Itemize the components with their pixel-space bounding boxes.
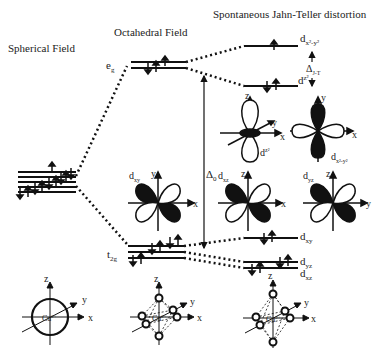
eg-label: eg xyxy=(106,59,115,74)
dz2-axis-y: y xyxy=(272,117,277,128)
elongated-axis-y: y xyxy=(304,297,309,308)
t2g-label: t2g xyxy=(107,248,118,263)
dx2y2-axis-y: y xyxy=(321,92,326,103)
octahedron-axis-z: z xyxy=(154,273,159,284)
dz2-axis-z: z xyxy=(245,90,250,101)
dz2-orbital-label: dz² xyxy=(260,147,270,158)
spherical-electrons xyxy=(17,162,74,199)
dyz-orbital-label: dyz xyxy=(303,170,314,183)
eg-electrons xyxy=(145,56,168,74)
dxy-axis-y: y xyxy=(151,168,156,179)
dz2-level-label: dz² xyxy=(298,74,309,86)
dxy-axis-x: x xyxy=(193,198,198,209)
dyz-axis-y: y xyxy=(366,198,371,209)
dx2y2-orbital-label: dx²-y² xyxy=(331,151,348,164)
connectors-spherical-octahedral xyxy=(76,66,127,244)
title-octahedral: Octahedral Field xyxy=(114,26,188,38)
sphere-axis-z: z xyxy=(44,273,49,284)
title-spherical: Spherical Field xyxy=(8,42,75,54)
sphere-center-label: Cu2+ xyxy=(42,314,57,323)
elongated-center-label: Cu2+ xyxy=(266,315,281,324)
octahedron-center-label: Cu2+ xyxy=(152,314,167,323)
octahedron-axis-y: y xyxy=(190,296,195,307)
orbital-dz2 xyxy=(220,97,281,162)
t2g-electrons xyxy=(130,235,181,266)
dxz-axis-z: z xyxy=(241,168,246,179)
dz2-axis-x: x xyxy=(280,131,285,142)
dx2y2-level-label: dx²-y² xyxy=(300,32,319,47)
connectors-octahedral-jt xyxy=(184,46,244,268)
sphere-axis-x: x xyxy=(88,312,93,323)
dxy-level-label: dxy xyxy=(300,230,313,245)
dxy-orbital-label: dxy xyxy=(129,170,140,183)
octahedron-axis-x: x xyxy=(197,312,202,323)
geometry-elongated-octahedron xyxy=(243,280,309,348)
dxz-orbital-label: dxz xyxy=(218,170,229,183)
title-jahn-teller: Spontaneous Jahn-Teller distortion xyxy=(213,8,367,20)
dx2y2-axis-x: x xyxy=(352,129,357,140)
elongated-axis-x: x xyxy=(311,313,316,324)
dxz-axis-x: x xyxy=(281,198,286,209)
dyz-axis-z: z xyxy=(326,168,331,179)
sphere-axis-y: y xyxy=(82,294,87,305)
orbital-dx2y2 xyxy=(290,97,353,162)
elongated-axis-z: z xyxy=(268,270,273,281)
t2g-levels xyxy=(128,246,184,258)
delta0-label: Δ0 xyxy=(206,168,217,183)
jahn-teller-diagram: Spherical Field Octahedral Field Spontan… xyxy=(0,0,387,360)
